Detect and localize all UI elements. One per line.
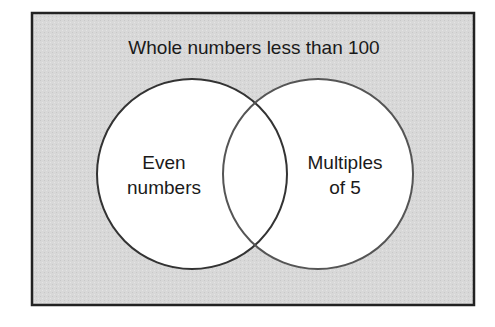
even-numbers-label-line2: numbers [127, 177, 201, 198]
venn-diagram: Whole numbers less than 100 Even numbers… [0, 0, 495, 327]
universal-set-label: Whole numbers less than 100 [128, 37, 379, 58]
multiples-of-5-label-line1: Multiples [308, 152, 383, 173]
even-numbers-label-line1: Even [142, 152, 185, 173]
multiples-of-5-label-line2: of 5 [329, 177, 361, 198]
